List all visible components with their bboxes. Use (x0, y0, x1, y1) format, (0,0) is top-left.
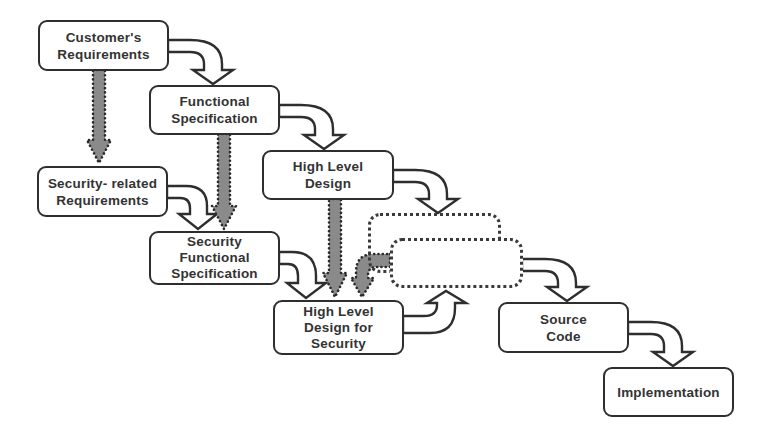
node-label-line: Security (311, 336, 366, 352)
node-label-line: Code (546, 328, 581, 345)
node-high-level-design: High Level Design (262, 150, 394, 200)
unlabeled-dotted-box-front (390, 238, 523, 288)
node-label-line: Specification (171, 266, 258, 282)
node-implementation: Implementation (603, 367, 734, 417)
node-customers-requirements: Customer's Requirements (38, 20, 169, 71)
flow-arrow-icon (522, 259, 587, 301)
node-security-functional-specification: Security Functional Specification (149, 231, 280, 285)
flow-arrow-icon (167, 186, 217, 229)
node-label-line: High Level (293, 158, 363, 175)
node-label-line: Security (187, 234, 242, 250)
security-derivation-arrow-icon (212, 134, 236, 229)
node-label-line: Functional (179, 93, 249, 110)
node-label-line: Requirements (57, 46, 149, 63)
node-label-line: Implementation (617, 384, 720, 401)
node-label-line: Specification (171, 110, 258, 127)
node-label-line: Requirements (56, 192, 148, 209)
node-security-related-requirements: Security- related Requirements (37, 166, 168, 217)
node-functional-specification: Functional Specification (149, 85, 280, 135)
security-development-flow-diagram: Customer's Requirements Functional Speci… (0, 0, 775, 437)
node-high-level-design-for-security: High Level Design for Security (273, 300, 404, 355)
flow-arrow-icon (403, 291, 466, 333)
node-source-code: Source Code (498, 302, 629, 353)
flow-arrow-icon (279, 105, 344, 149)
node-label-line: Functional (179, 250, 249, 266)
security-derivation-arrow-icon (87, 70, 111, 163)
flow-arrow-icon (168, 40, 233, 84)
node-label-line: Design (305, 175, 351, 192)
node-label-line: Customer's (66, 29, 142, 46)
flow-arrow-icon (628, 322, 693, 366)
flow-arrow-icon (393, 170, 458, 213)
node-label-line: Security- related (48, 175, 157, 192)
flow-arrow-icon (279, 252, 326, 298)
node-label-line: Design for (304, 320, 373, 336)
node-label-line: High Level (303, 304, 373, 320)
node-label-line: Source (540, 311, 587, 328)
